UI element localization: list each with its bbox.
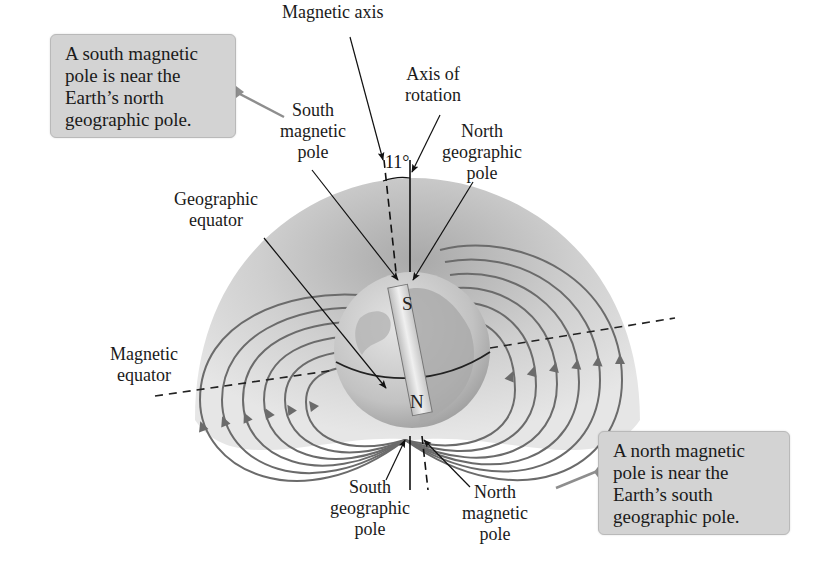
callout-line: pole is near the bbox=[65, 65, 221, 87]
north-magnetic-callout: A north magnetic pole is near the Earth’… bbox=[598, 431, 790, 535]
label-line: Magnetic axis bbox=[282, 2, 383, 23]
callout-line: A north magnetic bbox=[613, 440, 775, 462]
label-axis-of-rotation: Axis of rotation bbox=[405, 64, 461, 106]
north-magnetic-pole-pointer bbox=[424, 440, 470, 487]
label-south-geographic-pole: South geographic pole bbox=[330, 477, 410, 540]
label-line: geographic bbox=[442, 142, 522, 163]
label-line: Geographic bbox=[174, 189, 258, 210]
magnetic-field-diagram: S N 11° A south magnetic pole is near th… bbox=[0, 0, 828, 588]
callout-leader-bottom bbox=[556, 470, 600, 488]
label-geographic-equator: Geographic equator bbox=[174, 189, 258, 231]
callout-line: A south magnetic bbox=[65, 43, 221, 65]
label-south-magnetic-pole: South magnetic pole bbox=[280, 100, 346, 163]
magnet-north-label: N bbox=[410, 391, 424, 412]
label-magnetic-axis: Magnetic axis bbox=[282, 2, 383, 23]
label-line: North bbox=[442, 121, 522, 142]
label-line: South bbox=[280, 100, 346, 121]
label-line: magnetic bbox=[280, 121, 346, 142]
label-line: Magnetic bbox=[110, 344, 178, 365]
callout-line: geographic pole. bbox=[65, 109, 221, 131]
angle-label: 11° bbox=[385, 152, 410, 172]
label-line: equator bbox=[110, 365, 178, 386]
label-north-geographic-pole: North geographic pole bbox=[442, 121, 522, 184]
label-line: South bbox=[330, 477, 410, 498]
south-magnetic-callout: A south magnetic pole is near the Earth’… bbox=[50, 34, 236, 138]
label-line: geographic bbox=[330, 498, 410, 519]
callout-line: Earth’s north bbox=[65, 87, 221, 109]
callout-line: Earth’s south bbox=[613, 484, 775, 506]
label-line: pole bbox=[462, 524, 528, 545]
label-line: rotation bbox=[405, 85, 461, 106]
label-north-magnetic-pole: North magnetic pole bbox=[462, 482, 528, 545]
label-line: equator bbox=[174, 210, 258, 231]
label-line: Axis of bbox=[405, 64, 461, 85]
label-line: magnetic bbox=[462, 503, 528, 524]
callout-leader-top bbox=[236, 92, 284, 117]
callout-line: geographic pole. bbox=[613, 506, 775, 528]
label-line: pole bbox=[280, 142, 346, 163]
callout-line: pole is near the bbox=[613, 462, 775, 484]
label-line: North bbox=[462, 482, 528, 503]
rotation-axis-pointer bbox=[412, 115, 440, 172]
label-line: pole bbox=[330, 519, 410, 540]
label-line: pole bbox=[442, 163, 522, 184]
magnet-south-label: S bbox=[402, 293, 413, 314]
magnetic-axis-pointer bbox=[350, 37, 383, 160]
label-magnetic-equator: Magnetic equator bbox=[110, 344, 178, 386]
